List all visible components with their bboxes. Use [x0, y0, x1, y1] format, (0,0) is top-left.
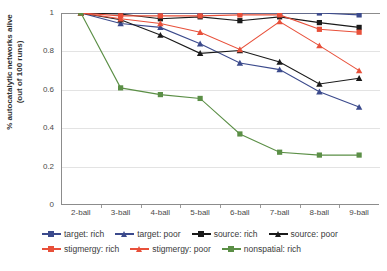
- x-axis-tick-label: 9-ball: [339, 207, 379, 221]
- data-point-marker: [317, 27, 322, 32]
- series-line: [81, 13, 359, 155]
- legend-row: target: richtarget: poorsource: richsour…: [42, 226, 352, 241]
- x-axis-tick-label: 6-ball: [220, 207, 260, 221]
- legend-label: target: poor: [137, 229, 180, 239]
- data-point-marker: [158, 13, 163, 18]
- legend-marker-square: [48, 246, 54, 252]
- legend-swatch-icon: [42, 229, 61, 238]
- legend-item[interactable]: source: rich: [192, 229, 258, 239]
- legend-label: source: rich: [214, 229, 258, 239]
- data-point-marker: [356, 104, 362, 110]
- data-point-marker: [118, 85, 123, 90]
- x-axis-tick-label: 5-ball: [180, 207, 220, 221]
- x-axis-tick-label: 8-ball: [300, 207, 340, 221]
- legend-item[interactable]: stigmergy: rich: [42, 244, 119, 254]
- data-point-marker: [237, 60, 243, 66]
- chart-legend: target: richtarget: poorsource: richsour…: [42, 226, 352, 256]
- x-axis-tick-label: 2-ball: [61, 207, 101, 221]
- data-point-marker: [158, 92, 163, 97]
- y-axis-tick-label: 0.4: [43, 124, 54, 132]
- data-point-marker: [357, 30, 362, 35]
- data-point-marker: [237, 18, 242, 23]
- data-point-marker: [317, 152, 322, 157]
- legend-item[interactable]: stigmergy: poor: [130, 244, 211, 254]
- y-axis-tick-label: 1: [50, 9, 54, 17]
- legend-swatch-icon: [130, 244, 149, 253]
- data-point-marker: [78, 13, 83, 16]
- legend-marker-triangle: [275, 231, 281, 237]
- x-axis-tickmark: [180, 205, 181, 208]
- data-point-marker: [357, 25, 362, 30]
- data-point-marker: [237, 13, 242, 18]
- data-point-marker: [356, 67, 362, 73]
- y-axis-ticks: 00.20.40.60.81: [0, 0, 61, 210]
- legend-swatch-icon: [115, 229, 134, 238]
- legend-swatch-icon: [192, 229, 211, 238]
- data-point-marker: [237, 131, 242, 136]
- x-axis-tick-label: 7-ball: [260, 207, 300, 221]
- y-axis-tick-label: 0.8: [43, 47, 54, 55]
- legend-item[interactable]: target: rich: [42, 229, 104, 239]
- legend-label: nonspatial: rich: [244, 244, 301, 254]
- legend-item[interactable]: nonspatial: rich: [222, 244, 301, 254]
- data-point-marker: [356, 75, 362, 81]
- x-axis-tickmark: [101, 205, 102, 208]
- data-point-marker: [157, 32, 163, 38]
- legend-marker-square: [198, 231, 204, 237]
- data-point-marker: [198, 96, 203, 101]
- legend-item[interactable]: source: poor: [269, 229, 338, 239]
- x-axis-ticks: 2-ball3-ball4-ball5-ball6-ball7-ball8-ba…: [61, 207, 379, 221]
- data-point-marker: [357, 13, 362, 18]
- legend-label: stigmergy: poor: [152, 244, 211, 254]
- chart-container: % autocatalytic networks alive (out of 1…: [0, 0, 387, 271]
- data-point-marker: [277, 150, 282, 155]
- legend-label: target: rich: [64, 229, 104, 239]
- legend-marker-square: [228, 246, 234, 252]
- data-point-marker: [277, 13, 282, 18]
- legend-label: source: poor: [291, 229, 338, 239]
- x-axis-tick-label: 3-ball: [101, 207, 141, 221]
- data-point-marker: [198, 13, 203, 18]
- data-point-marker: [316, 89, 322, 95]
- legend-marker-square: [48, 231, 54, 237]
- data-point-marker: [316, 42, 322, 48]
- x-axis-tick-label: 4-ball: [141, 207, 181, 221]
- legend-item[interactable]: target: poor: [115, 229, 180, 239]
- legend-marker-triangle: [121, 231, 127, 237]
- legend-swatch-icon: [222, 244, 241, 253]
- y-axis-tick-label: 0.2: [43, 163, 54, 171]
- x-axis-tickmark: [220, 205, 221, 208]
- x-axis-tickmark: [141, 205, 142, 208]
- legend-row: stigmergy: richstigmergy: poornonspatial…: [42, 241, 352, 256]
- data-point-marker: [317, 13, 322, 16]
- data-point-marker: [237, 46, 243, 52]
- data-point-marker: [197, 41, 203, 47]
- x-axis-tickmark: [300, 205, 301, 208]
- y-axis-tick-label: 0.6: [43, 86, 54, 94]
- legend-label: stigmergy: rich: [64, 244, 119, 254]
- x-axis-tickmark: [339, 205, 340, 208]
- data-point-marker: [357, 152, 362, 157]
- data-series-layer: [61, 13, 379, 205]
- x-axis-tickmark: [260, 205, 261, 208]
- y-axis-tick-label: 0: [50, 201, 54, 209]
- data-point-marker: [317, 20, 322, 25]
- legend-swatch-icon: [42, 244, 61, 253]
- legend-swatch-icon: [269, 229, 288, 238]
- legend-marker-triangle: [136, 246, 142, 252]
